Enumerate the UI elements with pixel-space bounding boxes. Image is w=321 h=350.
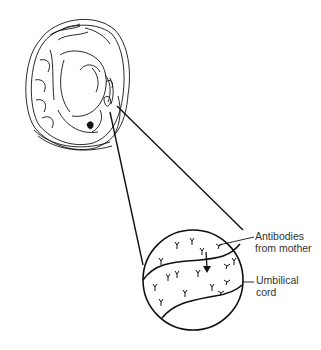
antibodies-label: Antibodies from mother [255,230,312,254]
antibody-icons [153,238,236,306]
umbilical-cord-label-line1: Umbilical [256,274,299,286]
antibodies-label-line2: from mother [255,242,312,254]
umbilical-cord-label: Umbilical cord [256,274,299,298]
umbilical-cord-label-line2: cord [256,286,299,298]
magnified-umbilical-cord [143,230,254,330]
antibodies-label-line1: Antibodies [255,230,312,242]
zoom-lines [110,106,243,265]
